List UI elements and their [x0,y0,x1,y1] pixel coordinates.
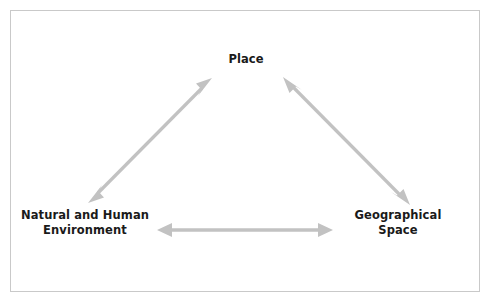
node-label-place: Place [196,52,296,67]
connector-environment-place [88,78,212,203]
connector-shaft [293,87,400,195]
diagram-canvas: Place Natural and Human Environment Geog… [0,0,492,304]
arrowhead-up-left [283,77,302,93]
connector-shaft [98,88,202,193]
node-label-environment: Natural and Human Environment [15,208,155,238]
arrowhead-left [157,223,172,237]
connector-layer [0,0,492,304]
arrowhead-down-right [391,189,410,205]
node-label-space: Geographical Space [338,208,458,238]
connector-place-space [283,77,410,205]
connector-environment-space [157,223,333,237]
arrowhead-right [318,223,333,237]
